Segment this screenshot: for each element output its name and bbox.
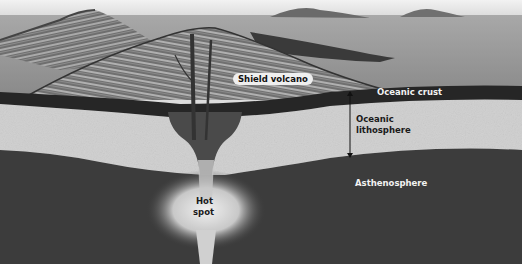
hot-spot-label-line2: spot xyxy=(193,207,214,217)
hotspot-volcano-diagram: Shield volcano Oceanic crust Oceanic lit… xyxy=(0,0,522,264)
asthenosphere-label: Asthenosphere xyxy=(355,178,427,188)
cross-section-illustration xyxy=(0,0,522,264)
hot-spot-label-line1: Hot xyxy=(196,196,213,206)
oceanic-lithosphere-label-line2: lithosphere xyxy=(356,125,411,135)
oceanic-crust-label: Oceanic crust xyxy=(377,87,442,97)
shield-volcano-label: Shield volcano xyxy=(233,73,313,85)
oceanic-lithosphere-label-line1: Oceanic xyxy=(356,114,394,124)
